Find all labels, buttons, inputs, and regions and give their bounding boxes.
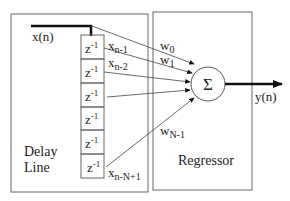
input-label: x(n) bbox=[32, 29, 54, 44]
tap-label-n-2: xn-2 bbox=[108, 55, 128, 72]
delay-cells bbox=[81, 35, 104, 178]
regressor-label: Regressor bbox=[178, 153, 234, 168]
sigma-icon: Σ bbox=[203, 75, 213, 94]
svg-text:z-1: z-1 bbox=[85, 111, 98, 127]
output-label: y(n) bbox=[255, 89, 277, 104]
delay-line-label: Delay bbox=[24, 144, 57, 159]
svg-text:z-1: z-1 bbox=[87, 159, 100, 175]
delay-line-label-2: Line bbox=[24, 160, 50, 175]
tap-label-n-N+1: xn-N+1 bbox=[108, 165, 141, 182]
svg-text:z-1: z-1 bbox=[85, 40, 98, 56]
adaptive-filter-diagram: x(n) z-1 z-1 z-1 z-1 z-1 z-1 xn-1 xn-2 x… bbox=[0, 0, 290, 201]
svg-text:z-1: z-1 bbox=[85, 64, 98, 80]
svg-text:z-1: z-1 bbox=[85, 135, 98, 151]
weight-label-N-1: wN-1 bbox=[160, 123, 185, 140]
tap-label-n-1: xn-1 bbox=[108, 38, 128, 55]
svg-text:z-1: z-1 bbox=[85, 88, 98, 104]
